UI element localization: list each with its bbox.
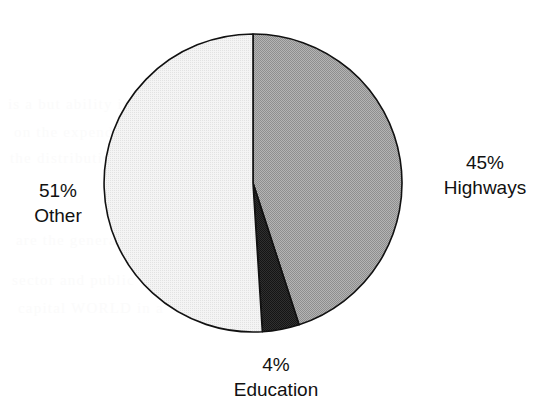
pie-label-other-category: Other xyxy=(6,203,110,228)
pie-label-other: 51% Other xyxy=(6,178,110,228)
pie-label-education: 4% Education xyxy=(196,352,356,402)
pie-label-education-category: Education xyxy=(196,377,356,402)
pie-label-highways: 45% Highways xyxy=(412,150,558,200)
pie-label-education-percent: 4% xyxy=(196,352,356,377)
pie-label-highways-percent: 45% xyxy=(412,150,558,175)
pie-label-other-percent: 51% xyxy=(6,178,110,203)
pie-chart-figure: is a but ability in on the expenditure a… xyxy=(0,0,558,419)
pie-label-highways-category: Highways xyxy=(412,175,558,200)
pie-slice-other[interactable] xyxy=(104,34,262,332)
pie-slices-group xyxy=(104,34,402,332)
